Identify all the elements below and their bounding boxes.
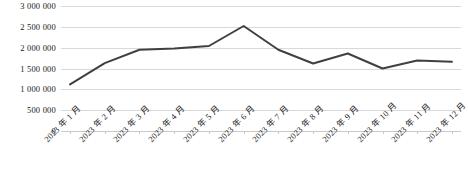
plot-area: [61, 6, 461, 131]
y-axis-tick-label: 500 000: [27, 105, 56, 115]
y-axis-tick-label: 3 000 000: [20, 1, 56, 11]
y-axis-tick-label: 1 500 000: [20, 64, 56, 74]
x-axis: 2023 年 1 月2023 年 2 月2023 年 3 月2023 年 4 月…: [0, 131, 465, 185]
series-line-path: [70, 26, 452, 84]
y-axis-tick-label: 1 000 000: [20, 84, 56, 94]
y-axis-tick-label: 2 500 000: [20, 22, 56, 32]
series-line-layer: [61, 6, 461, 131]
y-axis-tick-label: 2 000 000: [20, 43, 56, 53]
